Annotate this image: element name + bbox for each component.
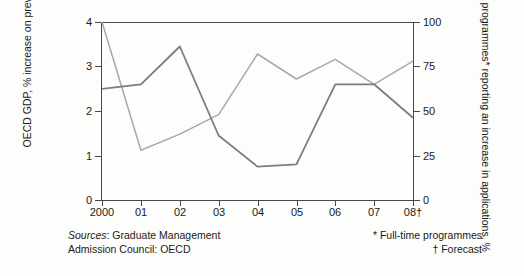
series-line-gdp [102,47,413,167]
sources-line-2: Admission Council: OECD [68,242,220,256]
series-line-mba [102,22,413,150]
footnote-star: * Full-time programmes [373,228,482,242]
sources-line-1: Sources: Graduate Management [68,228,220,242]
footnote-dagger: † Forecast [373,242,482,256]
sources-text: : Graduate Management [107,229,221,241]
sources-note: Sources: Graduate Management Admission C… [68,228,220,256]
sources-label: Sources [68,229,107,241]
footnotes: * Full-time programmes † Forecast [373,228,482,256]
chart-figure: 4 3 2 1 0 100 75 50 25 0 2000 01 02 03 0… [0,0,524,276]
